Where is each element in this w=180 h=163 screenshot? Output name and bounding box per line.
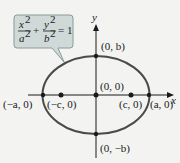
point-top-vertex: [94, 54, 98, 58]
eq-y-numerator: y: [43, 18, 49, 30]
y-axis-arrow-icon: [93, 24, 99, 31]
point-left-focus: [59, 93, 64, 98]
eq-a-exp: 2: [25, 27, 31, 39]
point-right-focus: [129, 93, 134, 98]
eq-x-numerator: x: [18, 18, 24, 30]
ellipse-diagram: x 2 a 2 + y 2 b 2 = 1 x y (0, b) (0, −b)…: [0, 0, 180, 163]
label-right-focus: (c, 0): [119, 98, 143, 111]
eq-y-exp: 2: [50, 13, 56, 25]
label-right-vertex: (a, 0): [150, 98, 174, 111]
point-left-vertex: [41, 93, 45, 97]
label-left-focus: (−c, 0): [47, 98, 77, 111]
y-axis-label: y: [91, 11, 97, 23]
label-bottom-vertex: (0, −b): [100, 142, 130, 155]
label-top-vertex: (0, b): [101, 40, 125, 53]
label-left-vertex: (−a, 0): [3, 98, 33, 111]
eq-b-exp: 2: [50, 27, 56, 39]
eq-plus: +: [33, 24, 39, 36]
point-origin: [94, 93, 99, 98]
point-right-vertex: [147, 93, 151, 97]
label-origin: (0, 0): [100, 80, 124, 93]
eq-x-exp: 2: [25, 13, 31, 25]
eq-equals: = 1: [58, 24, 72, 36]
point-bottom-vertex: [94, 132, 98, 136]
